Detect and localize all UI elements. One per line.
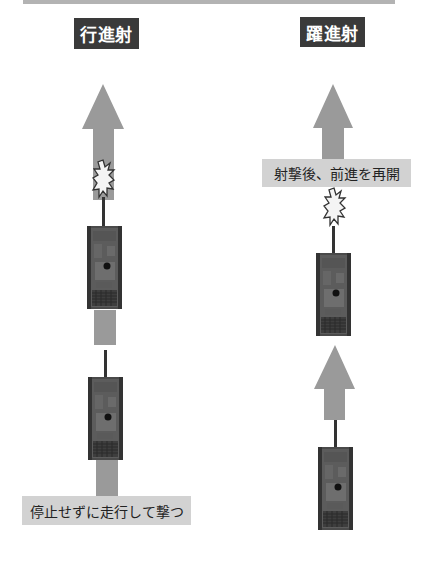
right-tank-2-icon [318,420,353,530]
right-muzzle-flash-icon [324,188,345,225]
left-movement-bar-2 [96,460,118,496]
diagram-graphics [0,0,424,569]
left-panel-caption: 停止せずに走行して撃つ [22,496,191,525]
right-advance-arrow-1 [313,84,353,160]
right-advance-arrow-2 [314,345,355,420]
left-movement-bar-1 [94,310,116,345]
right-panel-caption: 射撃後、前進を再開 [262,159,411,187]
left-tank-2-icon [88,350,123,460]
left-tank-1-icon [87,197,122,309]
right-tank-1-icon [316,226,351,336]
